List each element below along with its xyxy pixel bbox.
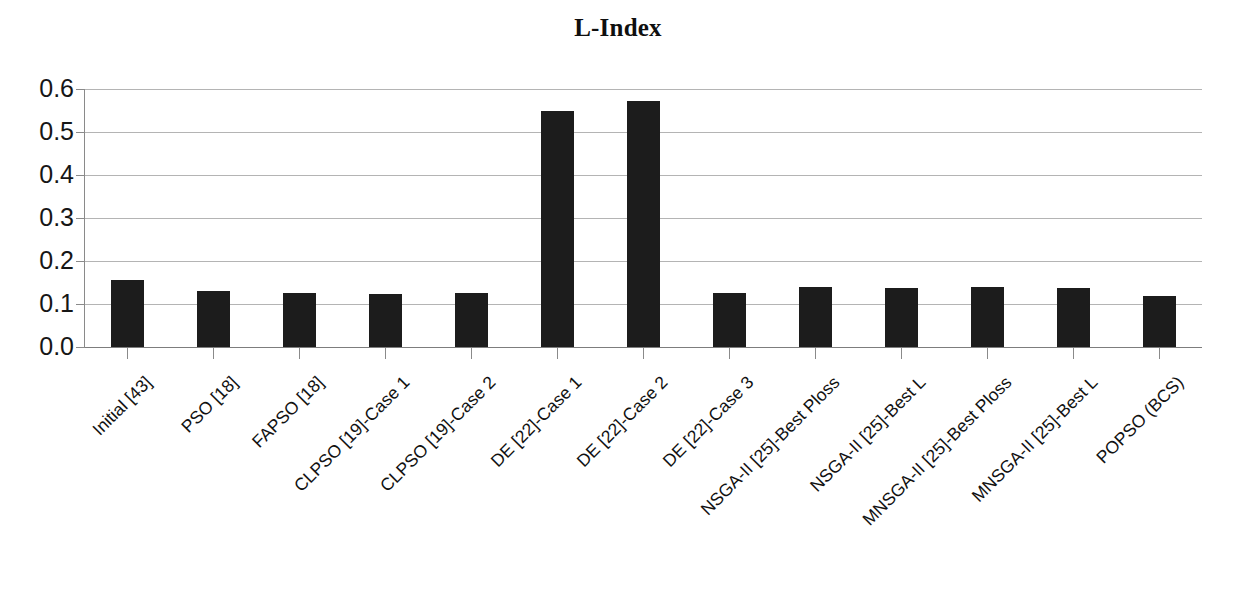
bar[interactable] [111, 280, 144, 347]
y-axis-tick [76, 132, 85, 133]
bar[interactable] [713, 293, 746, 347]
y-axis-tick-label: 0.5 [6, 119, 74, 144]
y-axis-tick-label: 0.6 [6, 76, 74, 101]
bar[interactable] [799, 287, 832, 347]
y-axis-tick [76, 347, 85, 348]
bar[interactable] [885, 288, 918, 347]
y-axis-tick [76, 175, 85, 176]
y-axis-tick-label: 0.0 [6, 334, 74, 359]
x-axis-tick [557, 348, 558, 359]
x-axis-tick [299, 348, 300, 359]
x-axis-tick [213, 348, 214, 359]
bar[interactable] [455, 293, 488, 347]
y-axis-tick-label: 0.2 [6, 248, 74, 273]
x-axis-tick [1159, 348, 1160, 359]
x-axis-tick [127, 348, 128, 359]
y-axis-tick [76, 89, 85, 90]
bar[interactable] [1143, 296, 1176, 347]
l-index-bar-chart: L-Index 0.00.10.20.30.40.50.6 Initial [4… [0, 0, 1236, 600]
x-axis-tick [1073, 348, 1074, 359]
x-axis-tick [729, 348, 730, 359]
bar[interactable] [971, 287, 1004, 347]
y-axis-tick-label: 0.3 [6, 205, 74, 230]
x-axis-tick [643, 348, 644, 359]
y-axis-tick [76, 304, 85, 305]
x-axis-tick [901, 348, 902, 359]
page-title: L-Index [0, 14, 1236, 42]
bar[interactable] [369, 294, 402, 347]
x-axis-tick [987, 348, 988, 359]
y-axis-tick [76, 218, 85, 219]
x-axis-tick [815, 348, 816, 359]
bars-layer [84, 89, 1202, 347]
x-axis-tick [471, 348, 472, 359]
x-axis-tick [385, 348, 386, 359]
bar[interactable] [197, 291, 230, 347]
y-axis-tick-label: 0.4 [6, 162, 74, 187]
bar[interactable] [627, 101, 660, 347]
bar[interactable] [283, 293, 316, 347]
y-axis-tick-label: 0.1 [6, 291, 74, 316]
bar[interactable] [1057, 288, 1090, 347]
bar[interactable] [541, 111, 574, 348]
y-axis-tick [76, 261, 85, 262]
